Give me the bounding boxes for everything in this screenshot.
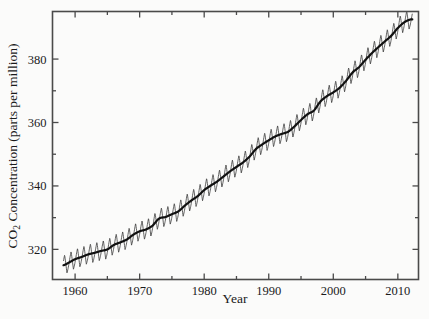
y-tick-label: 380 [28,53,47,67]
x-tick-label: 1960 [63,284,88,298]
x-tick-label: 2000 [321,284,346,298]
y-tick-label: 360 [28,116,47,130]
chart-canvas: 196019701980199020002010320340360380Year… [0,0,429,319]
x-axis-title: Year [223,291,248,306]
y-axis-title: CO2 Concentration (parts per million) [5,44,22,249]
y-axis-title-pre: CO [5,229,20,248]
x-tick-label: 1990 [256,284,281,298]
y-tick-label: 340 [28,179,47,193]
x-tick-label: 1980 [192,284,217,298]
y-axis-title-post: Concentration (parts per million) [5,44,20,225]
co2-concentration-chart: 196019701980199020002010320340360380Year… [0,0,429,319]
x-tick-label: 2010 [385,284,410,298]
x-tick-label: 1970 [127,284,152,298]
chart-background [0,0,429,319]
y-tick-label: 320 [28,243,47,257]
